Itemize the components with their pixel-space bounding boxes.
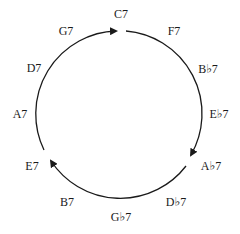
chord-label-g7: G7 bbox=[59, 25, 74, 37]
chord-label-e7: E7 bbox=[25, 160, 38, 172]
chord-label-db7: D♭7 bbox=[166, 196, 186, 208]
chord-label-d7: D7 bbox=[27, 62, 42, 74]
chord-label-bb7: B♭7 bbox=[198, 63, 218, 75]
chord-label-gb7: G♭7 bbox=[111, 211, 131, 223]
chord-label-f7: F7 bbox=[168, 25, 181, 37]
arc-to-ab7 bbox=[126, 31, 202, 155]
chord-circle-diagram: C7 F7 B♭7 E♭7 A♭7 D♭7 G♭7 B7 E7 A7 D7 G7 bbox=[0, 0, 240, 234]
chord-label-ab7: A♭7 bbox=[201, 160, 221, 172]
circle-arcs bbox=[0, 0, 240, 234]
chord-label-eb7: E♭7 bbox=[210, 108, 229, 120]
chord-label-a7: A7 bbox=[13, 108, 28, 120]
chord-label-b7: B7 bbox=[60, 196, 74, 208]
arc-to-c7 bbox=[36, 31, 116, 150]
chord-label-c7: C7 bbox=[114, 8, 128, 20]
arc-to-e7 bbox=[51, 161, 186, 198]
